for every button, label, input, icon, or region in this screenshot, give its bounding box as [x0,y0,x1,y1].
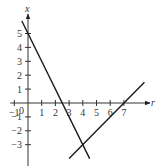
y-tick-label: 5 [17,28,22,39]
x-tick-label: 2 [53,107,58,118]
y-axis-label: x [24,3,30,14]
y-tick-label: −3 [11,139,22,150]
y-tick-label: 3 [17,56,22,67]
x-axis-label: r [151,97,155,108]
origin-label: 0 [19,105,24,116]
line-chart: −11234567−3−2−112345 r x 0 [0,0,158,168]
y-tick-label: −2 [11,125,22,136]
x-tick-label: 1 [39,107,44,118]
axis-ticks: −11234567−3−2−112345 [9,28,126,150]
axes [10,14,150,166]
x-tick-label: 4 [80,107,85,118]
x-tick-label: 7 [121,107,126,118]
y-tick-label: 4 [17,42,22,53]
x-tick-label: 5 [94,107,99,118]
line-series-2 [69,82,144,158]
y-tick-label: 2 [17,70,22,81]
plot-lines [22,21,145,159]
line-series-1 [22,21,90,159]
y-tick-label: 1 [17,84,22,95]
